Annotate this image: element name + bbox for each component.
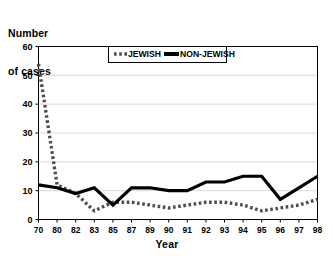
chart-canvas: 0102030405060 70808283858789909192939495… xyxy=(0,0,334,258)
x-tick-label: 98 xyxy=(313,225,323,235)
x-axis-title: Year xyxy=(0,238,334,250)
x-tick-label: 92 xyxy=(201,225,211,235)
y-tick-label: 40 xyxy=(22,99,32,109)
x-tick-label: 93 xyxy=(220,225,230,235)
x-tick-label: 94 xyxy=(238,225,248,235)
y-tick-label: 30 xyxy=(22,128,32,138)
y-tick-label: 60 xyxy=(22,42,32,52)
x-tick-label: 80 xyxy=(52,225,62,235)
x-tick-label: 83 xyxy=(90,225,100,235)
y-tick-label: 20 xyxy=(22,157,32,167)
x-tick-label: 85 xyxy=(108,225,118,235)
legend-label-jewish: JEWISH xyxy=(128,49,161,59)
chart-legend: JEWISHNON-JEWISH xyxy=(109,47,235,63)
x-tick-label: 95 xyxy=(257,225,267,235)
x-axis-ticks: 70808283858789909192939495969798 xyxy=(34,220,323,235)
x-tick-label: 96 xyxy=(276,225,286,235)
y-tick-label: 50 xyxy=(22,71,32,81)
x-tick-label: 82 xyxy=(71,225,81,235)
series-line-jewish xyxy=(39,64,318,211)
x-tick-label: 70 xyxy=(34,225,44,235)
y-tick-label: 0 xyxy=(27,215,32,225)
gridlines-group xyxy=(39,47,318,191)
y-axis-ticks: 0102030405060 xyxy=(22,42,38,225)
legend-label-non-jewish: NON-JEWISH xyxy=(180,49,235,59)
x-tick-label: 90 xyxy=(164,225,174,235)
data-line-jewish xyxy=(39,64,318,211)
y-tick-label: 10 xyxy=(22,186,32,196)
x-tick-label: 87 xyxy=(127,225,137,235)
chart-figure: Number of cases 0102030405060 7080828385… xyxy=(0,0,334,258)
x-tick-label: 97 xyxy=(294,225,304,235)
x-tick-label: 91 xyxy=(183,225,193,235)
x-tick-label: 89 xyxy=(145,225,155,235)
